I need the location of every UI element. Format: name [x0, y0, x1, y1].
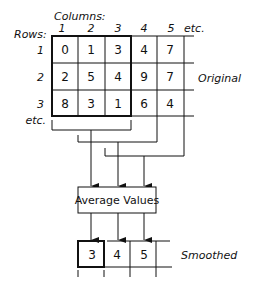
smoothed-label: Smoothed	[181, 249, 238, 262]
cell: 8	[61, 97, 69, 111]
output-arrows	[91, 213, 144, 240]
col-header-1: 1	[59, 22, 66, 35]
rows-label: Rows:	[14, 28, 47, 41]
col-header-4: 4	[141, 22, 148, 35]
row-header-1: 1	[37, 44, 44, 57]
smoothing-diagram: Columns: Rows: 1 2 3 4 5 etc. 1 2 3 etc.…	[0, 0, 258, 292]
col-header-2: 2	[88, 22, 95, 35]
col-header-3: 3	[115, 22, 122, 35]
cell: 3	[87, 97, 95, 111]
cell: 4	[166, 97, 174, 111]
cell: 7	[166, 43, 174, 57]
cell: 7	[166, 70, 174, 84]
cell: 1	[114, 97, 122, 111]
connector-lines	[52, 120, 184, 186]
cell: 6	[140, 97, 148, 111]
original-label: Original	[198, 72, 241, 85]
cell: 0	[61, 43, 69, 57]
cell: 3	[114, 43, 122, 57]
col-header-etc: etc.	[184, 22, 205, 35]
cell: 4	[114, 70, 122, 84]
row-header-etc: etc.	[25, 114, 46, 127]
average-values-label: Average Values	[75, 194, 160, 207]
row-header-3: 3	[37, 98, 44, 111]
cell: 4	[140, 43, 148, 57]
cell: 5	[87, 70, 95, 84]
cell: 2	[61, 70, 69, 84]
smoothed-cell: 4	[113, 248, 121, 262]
row-header-2: 2	[37, 71, 44, 84]
col-header-5: 5	[168, 22, 175, 35]
cell: 9	[140, 70, 148, 84]
smoothed-cell: 3	[88, 248, 96, 262]
cell: 1	[87, 43, 95, 57]
smoothed-cell: 5	[140, 248, 148, 262]
